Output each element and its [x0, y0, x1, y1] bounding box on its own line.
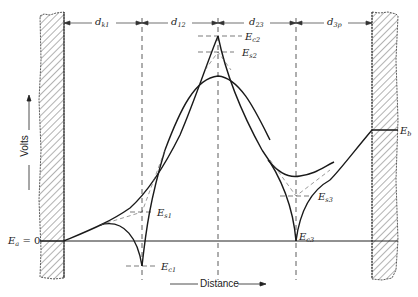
- y-axis-label: Volts: [20, 135, 30, 157]
- diagram-canvas: [0, 0, 418, 297]
- label-es1: Es1: [157, 208, 172, 220]
- potential-indicator-lines: [126, 36, 312, 266]
- label-ec1: Ec1: [161, 262, 176, 274]
- right-electrode: [372, 12, 398, 280]
- label-ec2: Ec2: [245, 32, 260, 44]
- label-eb: Eb: [400, 126, 411, 138]
- x-axis-label: Distance: [200, 279, 239, 289]
- label-d23: d23: [249, 17, 264, 29]
- potential-curves: [64, 36, 372, 266]
- label-d12: d12: [171, 17, 186, 29]
- left-electrode: [39, 12, 64, 279]
- label-ec3: Ec3: [299, 232, 314, 244]
- equivalent-potential-lines: [100, 52, 330, 225]
- label-es2: Es2: [242, 48, 257, 60]
- label-dk1: dk1: [95, 17, 109, 29]
- label-ea-zero: Ea = 0: [8, 236, 40, 248]
- label-es3: Es3: [318, 192, 333, 204]
- label-d3p: d3p: [327, 17, 342, 29]
